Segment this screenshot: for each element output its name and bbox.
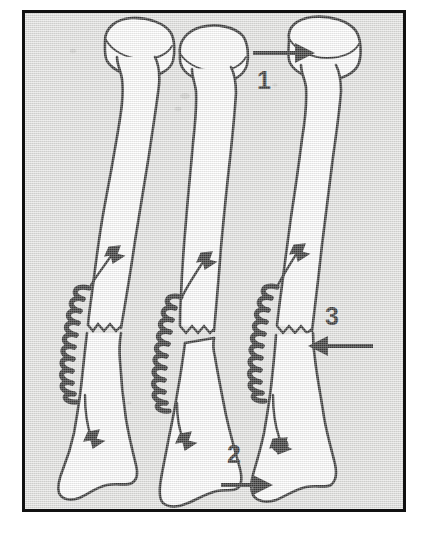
callout-3-label: 3 <box>325 302 339 330</box>
illustration-plate: 1 3 2 <box>22 10 406 512</box>
figure-root: 1 3 2 <box>0 0 426 533</box>
bone-middle <box>154 25 248 506</box>
bone-middle-shaft-distal <box>160 338 242 506</box>
bone-left-shaft-proximal <box>88 57 159 328</box>
bone-middle-shaft-proximal <box>180 67 236 331</box>
bone-right-shaft-distal <box>251 333 336 502</box>
callout-1-label: 1 <box>257 66 271 94</box>
illustration-canvas: 1 3 2 <box>25 13 403 509</box>
callout-3: 3 <box>308 302 373 356</box>
callout-2-label: 2 <box>227 440 241 468</box>
bone-left <box>58 18 174 500</box>
bone-right-shaft-proximal <box>277 65 341 331</box>
